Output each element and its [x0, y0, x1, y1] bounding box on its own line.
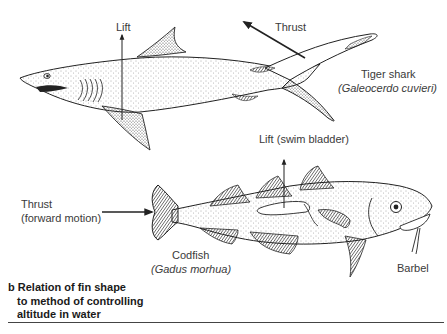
- barbel-label: Barbel: [397, 262, 429, 275]
- caption-line-1: Relation of fin shape: [18, 281, 126, 293]
- caption-letter: b: [8, 281, 15, 293]
- caption-line-3: altitude in water: [8, 308, 143, 322]
- caption-line-2: to method of controlling: [8, 295, 143, 309]
- shark-scientific-name: (Galeocerdo cuvieri): [338, 82, 437, 95]
- tiger-shark-drawing: [20, 27, 377, 150]
- codfish-thrust-label: Thrust: [21, 198, 52, 211]
- shark-thrust-label: Thrust: [275, 21, 306, 34]
- codfish-thrust-sublabel: (forward motion): [21, 212, 101, 225]
- bottom-divider: [8, 322, 444, 323]
- codfish-scientific-name: (Gadus morhua): [151, 263, 231, 276]
- codfish-lift-label: Lift (swim bladder): [259, 133, 349, 146]
- shark-common-name: Tiger shark: [361, 68, 416, 81]
- figure-caption: b Relation of fin shape to method of con…: [8, 281, 143, 322]
- shark-lift-label: Lift: [116, 21, 131, 34]
- codfish-common-name: Codfish: [172, 249, 209, 262]
